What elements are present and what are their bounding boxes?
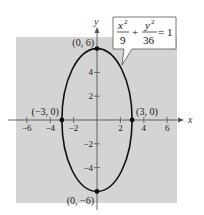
y-tick-label: 4 [89,67,94,77]
point-label: (3, 0) [136,106,158,118]
eq-y-den: 36 [143,34,155,46]
x-tick-label: −4 [45,123,55,133]
point-label: (0, 6) [72,37,94,49]
y-axis-label: y [93,16,99,27]
x-axis-label: x [187,114,193,125]
x-tick-label: −2 [69,123,79,133]
vertex-point [95,46,100,51]
eq-y-exp: 2 [151,18,155,26]
y-axis-arrow-icon [95,27,100,33]
vertex-point [130,118,135,123]
point-label: (−3, 0) [32,106,59,118]
x-tick-label: 4 [142,123,147,133]
ellipse-chart: xy −6−4−224642−2−4 (0, 6)(0, −6)(−3, 0)(… [0,0,204,215]
y-tick-label: −4 [83,163,93,173]
point-label: (0, −6) [67,195,94,207]
eq-y-num: y [144,19,150,31]
eq-x-exp: 2 [124,18,128,26]
eq-x-den: 9 [120,34,126,46]
y-tick-label: −2 [83,139,93,149]
x-tick-label: 2 [118,123,123,133]
eq-rhs: = 1 [158,26,172,38]
vertex-point [60,118,65,123]
x-tick-label: 6 [165,123,170,133]
eq-x-num: x [117,19,123,31]
x-axis-arrow-icon [178,118,184,123]
vertex-point [95,189,100,194]
x-tick-label: −6 [22,123,32,133]
eq-plus: + [132,26,138,38]
y-tick-label: 2 [89,91,94,101]
